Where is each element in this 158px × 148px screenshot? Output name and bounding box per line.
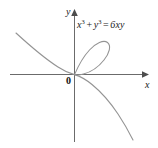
graph-figure: y x 0 x3+y3=6xy (0, 0, 158, 148)
x-axis-arrowhead (142, 71, 149, 78)
x-axis-label: x (145, 80, 149, 90)
equation-equals-sign: = (102, 19, 111, 30)
y-axis-label: y (66, 7, 70, 17)
equation-plus-sign: + (85, 19, 94, 30)
equation-annotation: x3+y3=6xy (77, 19, 125, 30)
equation-right-hand-side: 6xy (110, 19, 124, 30)
y-axis-arrowhead (71, 9, 78, 16)
origin-label: 0 (66, 76, 71, 86)
curve-loop (75, 41, 110, 75)
